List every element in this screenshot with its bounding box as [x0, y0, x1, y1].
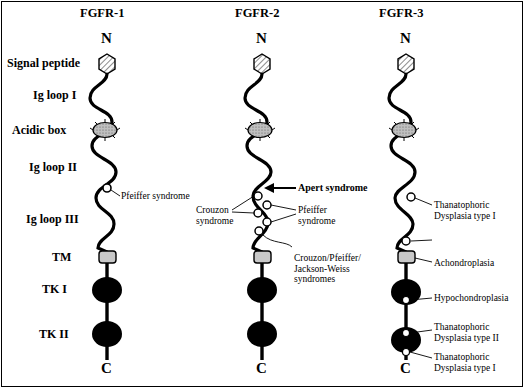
annotation-hypochondroplasia: Hypochondroplasia [434, 293, 508, 304]
fgfr2-mutation-marker [263, 201, 271, 209]
fgfr2-tm-icon [254, 251, 271, 263]
fgfr2-mutation-marker [263, 218, 271, 226]
domain-label-tm: TM [52, 250, 71, 265]
fgfr3-chain [389, 54, 432, 360]
figure-root: FGFR-1 FGFR-2 FGFR-3 N N N C C C Signal … [0, 0, 526, 390]
fgfr3-mutation-marker [402, 237, 410, 245]
fgfr1-chain [90, 54, 122, 360]
annotation-crouzon-syndrome: Crouzon syndrome [196, 205, 242, 226]
column-title-fgfr1: FGFR-1 [80, 6, 124, 21]
column-title-fgfr2: FGFR-2 [235, 6, 279, 21]
fgfr1-mutation-marker [103, 184, 111, 192]
fgfr1-n-terminus: N [101, 30, 112, 47]
fgfr1-c-terminus: C [101, 360, 112, 377]
annotation-thanatophoric-dysplasia-type-i-lower: Thanatophoric Dysplasia type I [434, 352, 496, 373]
annotation-pfeiffer-fgfr2: Pfeiffer syndrome [298, 205, 335, 226]
fgfr1-signal-peptide-icon [99, 54, 115, 74]
domain-label-tk1: TK I [42, 282, 67, 297]
fgfr1-tk2-icon [92, 321, 122, 347]
fgfr2-mutation-marker [255, 227, 263, 235]
domain-label-signal-peptide: Signal peptide [7, 56, 80, 71]
annotation-achondroplasia: Achondroplasia [434, 258, 494, 269]
fgfr3-c-terminus: C [400, 360, 411, 377]
column-title-fgfr3: FGFR-3 [379, 6, 423, 21]
fgfr3-mutation-marker [403, 349, 410, 356]
fgfr2-mutation-marker [254, 192, 262, 200]
fgfr3-mutation-marker [403, 297, 410, 304]
annotation-thanatophoric-dysplasia-type-i-upper: Thanatophoric Dysplasia type I [434, 200, 496, 221]
annotation-thanatophoric-dysplasia-type-ii: Thanatophoric Dysplasia type II [434, 322, 499, 343]
fgfr2-apert-arrow-icon [264, 183, 296, 193]
domain-label-tk2: TK II [39, 327, 69, 342]
fgfr3-signal-peptide-icon [398, 54, 414, 74]
domain-label-acidic-box: Acidic box [12, 123, 66, 138]
fgfr2-c-terminus: C [256, 360, 267, 377]
fgfr2-signal-peptide-icon [254, 54, 270, 74]
annotation-pfeiffer-fgfr1: Pfeiffer syndrome [121, 191, 190, 202]
domain-label-ig-loop-2: Ig loop II [29, 160, 77, 175]
fgfr2-mutation-marker [254, 209, 262, 217]
fgfr3-mutation-marker [407, 193, 415, 201]
fgfr3-n-terminus: N [400, 30, 411, 47]
fgfr1-tm-icon [99, 251, 116, 263]
fgfr2-n-terminus: N [256, 30, 267, 47]
fgfr2-tk1-icon [247, 277, 277, 303]
annotation-crouzon-pfeiffer-jackson-weiss: Crouzon/Pfeiffer/ Jackson-Weiss syndrome… [294, 253, 361, 285]
domain-label-ig-loop-3: Ig loop III [26, 212, 79, 227]
domain-label-ig-loop-1: Ig loop I [33, 88, 76, 103]
fgfr3-mutation-marker [403, 330, 410, 337]
fgfr3-tm-icon [398, 251, 415, 263]
annotation-apert-syndrome: Apert syndrome [298, 182, 368, 193]
fgfr2-tk2-icon [247, 321, 277, 347]
fgfr1-tk1-icon [92, 277, 122, 303]
